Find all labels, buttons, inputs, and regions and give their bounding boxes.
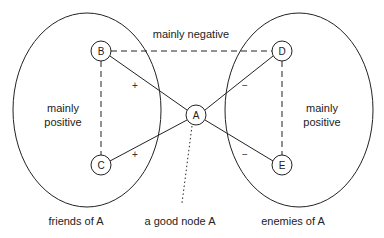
- enemies-inner-line1: mainly: [306, 102, 338, 114]
- friends-inner-line2: positive: [44, 116, 81, 128]
- edge-a-d: [205, 56, 273, 110]
- edge-a-b: [110, 56, 187, 110]
- node-c-label: C: [97, 160, 104, 171]
- friends-group-ellipse: [13, 13, 161, 207]
- enemies-group-ellipse: [225, 13, 373, 207]
- node-d-label: D: [278, 46, 285, 57]
- node-d: D: [272, 41, 292, 61]
- node-c: C: [91, 155, 111, 175]
- edge-a-c: [110, 120, 187, 161]
- node-e-label: E: [279, 160, 286, 171]
- node-a-label: A: [193, 110, 200, 121]
- sign-a-e: −: [242, 149, 248, 160]
- sign-a-d: −: [242, 80, 248, 91]
- good-node-annotation: a good node A: [145, 215, 217, 227]
- node-b: B: [91, 41, 111, 61]
- node-e: E: [272, 155, 292, 175]
- edge-a-e: [205, 120, 273, 161]
- node-a: A: [186, 105, 206, 125]
- node-b-label: B: [98, 46, 105, 57]
- mainly-negative-label: mainly negative: [153, 28, 229, 40]
- signed-network-diagram: B C D E A + + − − mainly negative mainly…: [0, 0, 384, 238]
- enemies-inner-line2: positive: [303, 116, 340, 128]
- sign-a-b: +: [132, 80, 138, 91]
- annotation-pointer: [182, 126, 192, 203]
- enemies-group-label: enemies of A: [261, 215, 325, 227]
- sign-a-c: +: [132, 149, 138, 160]
- friends-group-label: friends of A: [48, 215, 104, 227]
- friends-inner-line1: mainly: [47, 102, 79, 114]
